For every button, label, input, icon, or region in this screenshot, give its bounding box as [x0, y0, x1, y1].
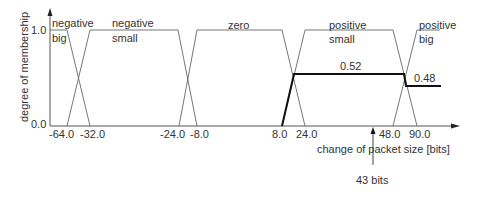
- x-tick-8: 8.0: [272, 128, 287, 140]
- label-negative-small-2: small: [112, 32, 138, 44]
- label-positive-big-2: big: [419, 33, 434, 45]
- x-axis-label: change of packet size [bits]: [317, 143, 450, 155]
- label-negative-big-1: negative: [52, 17, 94, 29]
- marker-arrow-icon: [371, 127, 376, 134]
- x-tick-neg24: -24.0: [160, 128, 185, 140]
- label-negative-small-1: negative: [112, 17, 154, 29]
- value-0-48: 0.48: [414, 72, 435, 84]
- x-tick-90: 90.0: [409, 128, 430, 140]
- y-tick-0: 0.0: [31, 118, 46, 130]
- label-positive-small-1: positive: [329, 19, 366, 31]
- label-positive-big-1: positive: [419, 19, 456, 31]
- x-axis-arrow-icon: [451, 124, 460, 129]
- y-tick-1: 1.0: [31, 24, 46, 36]
- x-tick-neg64: -64.0: [49, 128, 74, 140]
- value-0-52: 0.52: [340, 60, 361, 72]
- x-tick-neg32: -32.0: [80, 128, 105, 140]
- y-axis-label: degree of membership: [18, 12, 30, 122]
- x-tick-24: 24.0: [296, 128, 317, 140]
- label-positive-small-2: small: [329, 33, 355, 45]
- marker-43-bits-label: 43 bits: [356, 174, 388, 186]
- y-axis-arrow-icon: [48, 8, 53, 16]
- label-negative-big-2: big: [52, 32, 67, 44]
- x-tick-neg8: -8.0: [190, 128, 209, 140]
- label-zero: zero: [228, 19, 249, 31]
- x-tick-48: 48.0: [379, 128, 400, 140]
